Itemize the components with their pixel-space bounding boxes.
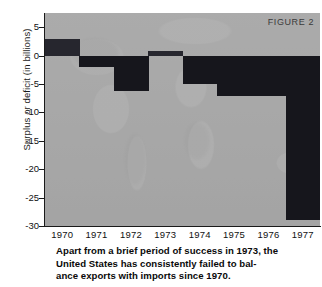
y-tick-mark (39, 141, 45, 142)
y-tick-label: 5 (34, 21, 39, 32)
x-tick-label: 1977 (283, 229, 322, 240)
figure-caption: Apart from a brief period of success in … (56, 245, 318, 283)
bar-1977 (286, 56, 320, 221)
world-map-watermark-detail (45, 13, 320, 226)
bar-1973 (148, 51, 183, 56)
y-tick-label: 0 (34, 50, 39, 61)
y-tick-mark (39, 169, 45, 170)
figure-container: Surplus or deficit (in billions) FIGURE … (0, 0, 322, 287)
y-axis-title: Surplus or deficit (in billions) (21, 0, 32, 180)
bar-1976 (251, 56, 286, 97)
bar-1972 (114, 56, 149, 91)
y-tick-label: -5 (31, 78, 39, 89)
caption-line-2: United States has consistently failed to… (56, 258, 318, 271)
y-tick-label: -20 (25, 163, 39, 174)
figure-label: FIGURE 2 (268, 17, 314, 27)
y-tick-mark (39, 226, 45, 227)
y-tick-mark (39, 84, 45, 85)
y-tick-mark (39, 112, 45, 113)
y-tick-mark (39, 198, 45, 199)
bar-1970 (45, 39, 80, 56)
bar-1971 (79, 56, 114, 67)
bar-1974 (183, 56, 218, 84)
world-map-watermark (45, 13, 320, 226)
y-tick-label: -10 (25, 106, 39, 117)
y-tick-label: -30 (25, 220, 39, 231)
bar-1975 (217, 56, 252, 97)
y-tick-mark (39, 27, 45, 28)
caption-line-1: Apart from a brief period of success in … (56, 245, 318, 258)
plot-area: FIGURE 2 (45, 13, 320, 226)
y-tick-label: -15 (25, 135, 39, 146)
x-axis-line (44, 226, 321, 227)
caption-line-3: ance exports with imports since 1970. (56, 270, 318, 283)
y-tick-label: -25 (25, 192, 39, 203)
y-tick-mark (39, 56, 45, 57)
